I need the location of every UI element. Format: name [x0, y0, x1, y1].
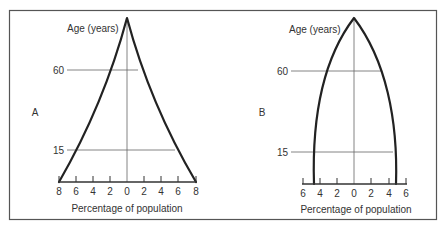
panel-b: 6 4 2 0 2 4 6 Age (years) 60 15 B Percen…: [259, 18, 412, 215]
tick-label: 2: [141, 186, 147, 197]
panel-a-ticks: [59, 176, 196, 182]
tick-label: 4: [386, 188, 392, 199]
panel-a-x-axis-label: Percentage of population: [71, 203, 182, 214]
tick-label: 2: [368, 188, 374, 199]
tick-label: 4: [158, 186, 164, 197]
panel-a-age-15-label: 15: [53, 145, 65, 156]
panel-b-tick-labels: 6 4 2 0 2 4 6: [300, 188, 409, 199]
tick-label: 6: [403, 188, 409, 199]
tick-label: 2: [334, 188, 340, 199]
panel-b-pyramid-curve: [314, 18, 396, 184]
panel-a: 8 6 4 2 0 2 4 6 8 Age (years) 60 15 A Pe…: [32, 18, 200, 214]
tick-label: 2: [107, 186, 113, 197]
panel-a-tick-labels: 8 6 4 2 0 2 4 6 8: [56, 186, 199, 197]
tick-label: 0: [124, 186, 130, 197]
tick-label: 8: [193, 186, 199, 197]
panel-b-ticks: [303, 178, 406, 184]
tick-label: 6: [73, 186, 79, 197]
tick-label: 6: [175, 186, 181, 197]
tick-label: 4: [317, 188, 323, 199]
panel-b-y-axis-label: Age (years): [289, 24, 341, 35]
population-pyramids-figure: 8 6 4 2 0 2 4 6 8 Age (years) 60 15 A Pe…: [0, 0, 447, 233]
panel-a-label: A: [32, 107, 39, 118]
panel-b-x-axis-label: Percentage of population: [300, 204, 411, 215]
tick-label: 0: [351, 188, 357, 199]
panel-a-y-axis-label: Age (years): [67, 23, 119, 34]
tick-label: 8: [56, 186, 62, 197]
panel-a-age-60-label: 60: [53, 65, 65, 76]
panel-a-pyramid-curve: [59, 18, 196, 182]
tick-label: 4: [90, 186, 96, 197]
panel-b-age-60-label: 60: [277, 66, 289, 77]
tick-label: 6: [300, 188, 306, 199]
panel-b-label: B: [259, 107, 266, 118]
panel-b-age-15-label: 15: [277, 147, 289, 158]
